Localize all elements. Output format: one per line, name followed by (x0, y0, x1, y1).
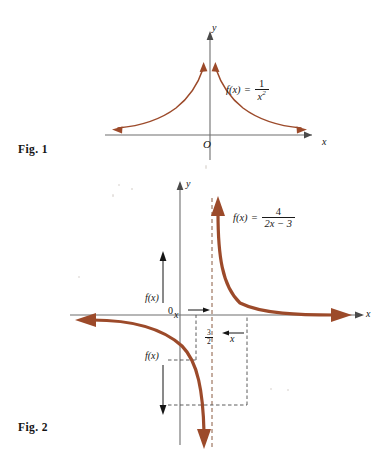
fig2-fx-up-arrow (160, 251, 167, 303)
fig1-y-axis-label: y (212, 22, 216, 33)
fig2-x-approach-right-arrow (188, 307, 210, 312)
fig2-x-approach-right-label: x (174, 309, 178, 320)
fig2-fx-lower-label: f(x) (145, 350, 159, 361)
fig2-x-approach-left-label: x (230, 333, 234, 344)
fig1-left-branch (112, 62, 207, 133)
fig2-formula: f(x) = 4 2x − 3 (233, 206, 295, 229)
scan-speck (118, 184, 120, 186)
fig2-formula-fraction: 4 2x − 3 (262, 206, 296, 229)
fig2-asymptote-value-label: 3 2 (205, 329, 213, 345)
fig2-formula-numerator: 4 (273, 206, 284, 217)
figure-2-graph (0, 160, 389, 460)
scan-speck (205, 165, 207, 169)
scan-speck (270, 388, 272, 390)
fig1-formula-denominator-exponent: 2 (262, 89, 266, 97)
scan-speck (78, 276, 80, 278)
fig1-x-axis-label: x (322, 136, 326, 147)
fig1-formula-lhs: f(x) (226, 84, 241, 95)
fig1-formula-numerator: 1 (256, 78, 267, 89)
fig2-left-branch (75, 313, 211, 449)
fig2-formula-lhs: f(x) (233, 212, 248, 223)
fig1-origin-label: O (203, 138, 211, 150)
fig1-formula-equals: = (245, 84, 251, 95)
fig1-formula-denominator: x2 (255, 89, 269, 102)
figure-1-graph: O (0, 0, 389, 170)
fig2-fx-upper-label: f(x) (145, 292, 159, 303)
fig2-x-axis-label: x (366, 308, 370, 319)
fig1-formula: f(x) = 1 x2 (226, 78, 269, 102)
fig2-asymptote-denominator: 2 (205, 337, 213, 346)
fig2-origin-label: 0 (168, 305, 173, 316)
fig1-formula-fraction: 1 x2 (255, 78, 269, 102)
fig2-formula-denominator: 2x − 3 (262, 217, 296, 229)
scan-speck (112, 194, 114, 197)
fig2-formula-equals: = (252, 212, 258, 223)
figure-2-caption: Fig. 2 (18, 421, 48, 433)
fig2-fx-down-arrow (160, 365, 167, 415)
fig2-y-axis-label: y (186, 178, 190, 189)
scan-speck (131, 188, 133, 190)
figure-1-caption: Fig. 1 (18, 143, 48, 155)
scan-speck (287, 389, 289, 391)
fig2-asymptote-numerator: 3 (205, 329, 213, 337)
